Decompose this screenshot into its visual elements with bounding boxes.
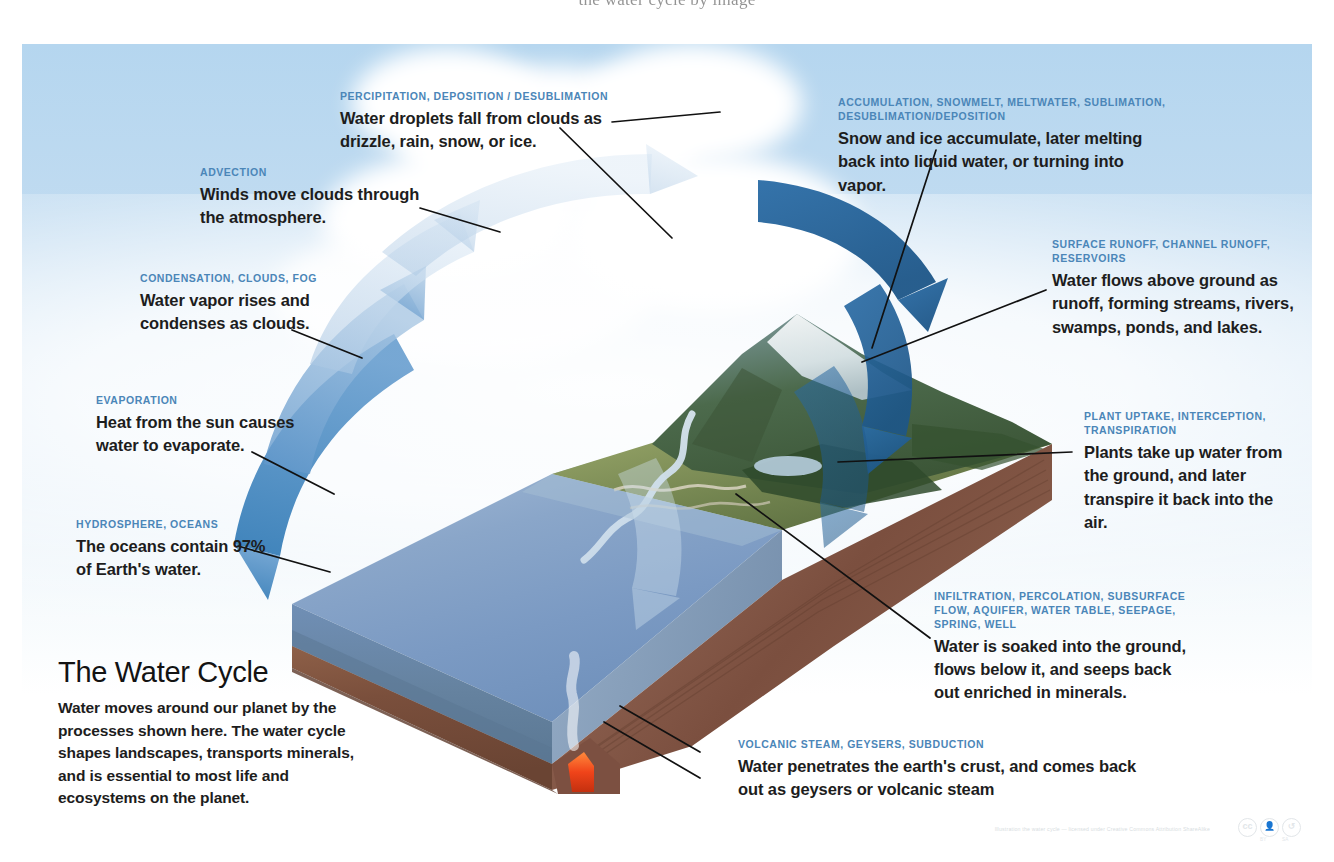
label-evaporation: EVAPORATION Heat from the sun causes wat… <box>96 394 314 458</box>
volcanic-steam-plume <box>571 656 575 746</box>
water-cycle-infographic: the water cycle by image <box>0 0 1334 862</box>
label-infiltration-kicker: INFILTRATION, PERCOLATION, SUBSURFACE FL… <box>934 590 1190 632</box>
label-condensation: CONDENSATION, CLOUDS, FOG Water vapor ri… <box>140 272 354 336</box>
label-condensation-kicker: CONDENSATION, CLOUDS, FOG <box>140 272 354 286</box>
label-precipitation-kicker: PERCIPITATION, DEPOSITION / DESUBLIMATIO… <box>340 90 616 104</box>
label-precipitation-body: Water droplets fall from clouds as drizz… <box>340 107 616 154</box>
label-precipitation: PERCIPITATION, DEPOSITION / DESUBLIMATIO… <box>340 90 616 154</box>
creative-commons-badges[interactable]: cc 👤 BY ↺ SA <box>1238 818 1301 837</box>
label-volcanic-body: Water penetrates the earth's crust, and … <box>738 755 1138 802</box>
label-evaporation-kicker: EVAPORATION <box>96 394 314 408</box>
label-advection: ADVECTION Winds move clouds through the … <box>200 166 432 230</box>
cc-by-caption: BY <box>1260 837 1267 842</box>
title-block: The Water Cycle Water moves around our p… <box>58 657 378 810</box>
label-accumulation-body: Snow and ice accumulate, later melting b… <box>838 127 1174 197</box>
arrow-rising-vapor-head <box>434 200 480 252</box>
cloud-lower-right <box>562 154 862 314</box>
arrow-advection-head <box>646 144 698 194</box>
label-surface-runoff-body: Water flows above ground as runoff, form… <box>1052 269 1304 339</box>
cropped-top-caption: the water cycle by image <box>0 0 1334 12</box>
page-description: Water moves around our planet by the pro… <box>58 697 378 809</box>
label-accumulation-kicker: ACCUMULATION, SNOWMELT, MELTWATER, SUBLI… <box>838 96 1174 124</box>
cc-sa-icon: ↺ <box>1282 818 1301 837</box>
label-advection-body: Winds move clouds through the atmosphere… <box>200 183 432 230</box>
label-plant-uptake: PLANT UPTAKE, INTERCEPTION, TRANSPIRATIO… <box>1084 410 1300 534</box>
label-plant-uptake-body: Plants take up water from the ground, an… <box>1084 441 1300 535</box>
cc-icon: cc <box>1238 818 1257 837</box>
page-title: The Water Cycle <box>58 657 378 687</box>
credit-line: Illustration the water cycle — licensed … <box>880 826 1210 834</box>
mountain-lake <box>754 456 822 476</box>
label-volcanic-kicker: VOLCANIC STEAM, GEYSERS, SUBDUCTION <box>738 738 1138 752</box>
label-volcanic: VOLCANIC STEAM, GEYSERS, SUBDUCTION Wate… <box>738 738 1138 802</box>
label-plant-uptake-kicker: PLANT UPTAKE, INTERCEPTION, TRANSPIRATIO… <box>1084 410 1300 438</box>
label-infiltration-body: Water is soaked into the ground, flows b… <box>934 635 1190 705</box>
label-hydrosphere-kicker: HYDROSPHERE, OCEANS <box>76 518 276 532</box>
label-hydrosphere-body: The oceans contain 97% of Earth's water. <box>76 535 276 582</box>
label-accumulation: ACCUMULATION, SNOWMELT, MELTWATER, SUBLI… <box>838 96 1174 197</box>
cc-sa-caption: SA <box>1282 837 1289 842</box>
cc-by-icon: 👤 <box>1260 818 1279 837</box>
arrow-precipitation <box>758 180 936 300</box>
label-advection-kicker: ADVECTION <box>200 166 432 180</box>
label-surface-runoff-kicker: SURFACE RUNOFF, CHANNEL RUNOFF, RESERVOI… <box>1052 238 1304 266</box>
label-condensation-body: Water vapor rises and condenses as cloud… <box>140 289 354 336</box>
label-surface-runoff: SURFACE RUNOFF, CHANNEL RUNOFF, RESERVOI… <box>1052 238 1304 339</box>
label-evaporation-body: Heat from the sun causes water to evapor… <box>96 411 314 458</box>
label-infiltration: INFILTRATION, PERCOLATION, SUBSURFACE FL… <box>934 590 1190 705</box>
label-hydrosphere: HYDROSPHERE, OCEANS The oceans contain 9… <box>76 518 276 582</box>
